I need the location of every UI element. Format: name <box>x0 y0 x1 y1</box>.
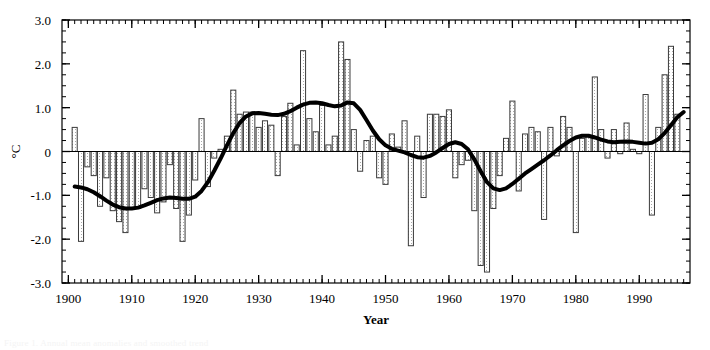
bar <box>402 121 407 152</box>
bar <box>313 132 318 152</box>
bar <box>104 152 109 178</box>
bar <box>453 152 458 178</box>
bar <box>161 152 166 202</box>
bar <box>320 105 325 151</box>
bar-series <box>72 42 680 272</box>
bar <box>193 152 198 180</box>
y-tick-label: 3.0 <box>35 13 51 28</box>
bar <box>256 127 261 151</box>
bar <box>377 152 382 178</box>
bar <box>415 136 420 151</box>
bar <box>370 136 375 151</box>
bar <box>332 136 337 151</box>
bar <box>307 119 312 152</box>
bar <box>484 152 489 273</box>
y-tick-label: 2.0 <box>35 57 51 72</box>
x-tick-label: 1950 <box>373 291 399 306</box>
bar <box>427 114 432 151</box>
x-axis-title: Year <box>363 312 389 327</box>
bar <box>624 123 629 151</box>
bar <box>85 152 90 167</box>
bar <box>497 152 502 176</box>
bar <box>548 127 553 151</box>
bar <box>580 138 585 151</box>
bar <box>180 152 185 242</box>
x-tick-label: 1910 <box>119 291 145 306</box>
bar <box>78 152 83 242</box>
bar <box>281 116 286 151</box>
anomaly-chart: 3.02.01.00-1.0-2.0-3.0190019101920193019… <box>0 0 710 350</box>
bar <box>91 152 96 176</box>
x-tick-label: 1920 <box>182 291 208 306</box>
x-tick-label: 1990 <box>626 291 652 306</box>
bar <box>459 152 464 165</box>
bar <box>123 152 128 233</box>
bar <box>275 152 280 176</box>
bar <box>167 152 172 165</box>
bar <box>117 152 122 222</box>
figure-container: 3.02.01.00-1.0-2.0-3.0190019101920193019… <box>0 0 710 350</box>
x-tick-label: 1940 <box>309 291 335 306</box>
bar <box>434 114 439 151</box>
bar <box>510 101 515 151</box>
x-tick-label: 1900 <box>55 291 81 306</box>
bar <box>504 138 509 151</box>
bar <box>586 136 591 151</box>
bar <box>605 152 610 159</box>
bar <box>250 112 255 151</box>
bar <box>649 152 654 216</box>
bar <box>212 152 217 159</box>
figure-caption: Figure 1. Annual mean anomalies and smoo… <box>4 338 704 350</box>
bar <box>262 121 267 152</box>
bar <box>199 119 204 152</box>
bar <box>186 152 191 216</box>
bar <box>269 125 274 151</box>
x-tick-label: 1980 <box>563 291 589 306</box>
x-tick-label: 1930 <box>246 291 272 306</box>
bar <box>301 51 306 152</box>
bar <box>573 152 578 233</box>
bar <box>326 145 331 152</box>
bar <box>351 130 356 152</box>
bar <box>358 152 363 172</box>
y-tick-label: -2.0 <box>30 232 51 247</box>
bar <box>516 152 521 191</box>
bar <box>142 152 147 189</box>
y-tick-label: -1.0 <box>30 188 51 203</box>
bar <box>529 127 534 151</box>
bar <box>231 90 236 151</box>
bar <box>339 42 344 152</box>
bar <box>668 46 673 151</box>
bar <box>129 152 134 209</box>
bar <box>294 145 299 152</box>
y-axis-title: °C <box>8 145 23 159</box>
y-tick-label: -3.0 <box>30 276 51 291</box>
bar <box>364 141 369 152</box>
bar <box>408 152 413 246</box>
bar <box>72 127 77 151</box>
bar <box>491 152 496 209</box>
x-tick-label: 1960 <box>436 291 462 306</box>
y-tick-label: 1.0 <box>35 101 51 116</box>
bar <box>535 132 540 152</box>
bar <box>136 152 141 209</box>
y-tick-label: 0 <box>45 145 52 160</box>
bar <box>383 152 388 185</box>
bar <box>662 75 667 152</box>
bar <box>148 152 153 198</box>
bar <box>592 77 597 152</box>
bar <box>523 134 528 152</box>
x-tick-label: 1970 <box>499 291 525 306</box>
bar <box>155 152 160 213</box>
